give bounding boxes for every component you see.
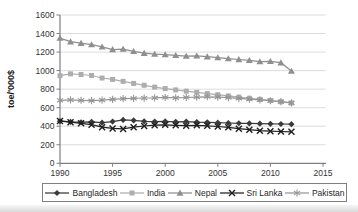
plot-area: toe/'000$ 020040060080010001200140016001… [0, 0, 358, 212]
triangle-marker [57, 35, 64, 41]
y-tick-label: 1200 [36, 47, 55, 57]
legend-label: Nepal [195, 188, 217, 198]
diamond-marker [194, 119, 200, 125]
diamond-marker [236, 120, 242, 126]
legend-item-bangladesh: Bangladesh [44, 188, 117, 198]
x-tick-label: 1995 [103, 168, 122, 178]
x-tick-label: 2000 [156, 168, 175, 178]
legend-marker-diamond-icon [44, 188, 70, 198]
square-marker [184, 89, 189, 94]
legend-item-nepal: Nepal [167, 188, 217, 198]
square-marker [173, 87, 178, 92]
square-marker [68, 71, 73, 76]
diamond-marker [246, 120, 252, 126]
legend-marker-asterisk-icon [284, 188, 310, 198]
legend-label: India [147, 188, 165, 198]
square-marker [89, 73, 94, 78]
legend-marker-square-icon [119, 188, 145, 198]
x-tick-label: 2015 [314, 168, 333, 178]
square-marker [100, 76, 105, 81]
legend-label: Pakistan [312, 188, 345, 198]
legend-marker-triangle-icon [167, 188, 193, 198]
square-marker [129, 190, 134, 195]
diamond-marker [78, 119, 84, 125]
series-nepal [57, 35, 295, 74]
square-marker [152, 85, 157, 90]
y-tick-label: 1600 [36, 10, 55, 20]
y-tick-label: 1000 [36, 66, 55, 76]
y-tick-label: 600 [40, 103, 54, 113]
x-tick-label: 2010 [261, 168, 280, 178]
x-tick-label: 2005 [208, 168, 227, 178]
legend-item-sri-lanka: Sri Lanka [219, 188, 283, 198]
y-tick-label: 1400 [36, 29, 55, 39]
square-marker [121, 79, 126, 84]
diamond-marker [120, 117, 126, 123]
y-tick-label: 400 [40, 121, 54, 131]
square-marker [110, 77, 115, 82]
series-pakistan [57, 93, 295, 106]
y-tick-label: 0 [50, 158, 55, 168]
square-marker [163, 86, 168, 91]
legend: BangladeshIndiaNepalSri LankaPakistan [42, 183, 347, 202]
plot-layers: 0200400600800100012001400160019901995200… [36, 10, 333, 178]
bottom-shade [0, 205, 358, 212]
diamond-marker [54, 189, 60, 195]
y-axis-label: toe/'000$ [6, 70, 16, 108]
square-marker [142, 83, 147, 88]
square-marker [58, 73, 63, 78]
y-tick-label: 200 [40, 140, 54, 150]
legend-item-pakistan: Pakistan [284, 188, 345, 198]
legend-item-india: India [119, 188, 165, 198]
legend-label: Sri Lanka [247, 188, 283, 198]
diamond-marker [131, 117, 137, 123]
y-tick-label: 800 [40, 84, 54, 94]
legend-marker-x-icon [219, 188, 245, 198]
legend-label: Bangladesh [72, 188, 117, 198]
energy-intensity-chart: toe/'000$ 020040060080010001200140016001… [0, 0, 358, 212]
square-marker [79, 72, 84, 77]
x-tick-label: 1990 [51, 168, 70, 178]
diamond-marker [110, 118, 116, 124]
square-marker [131, 81, 136, 86]
